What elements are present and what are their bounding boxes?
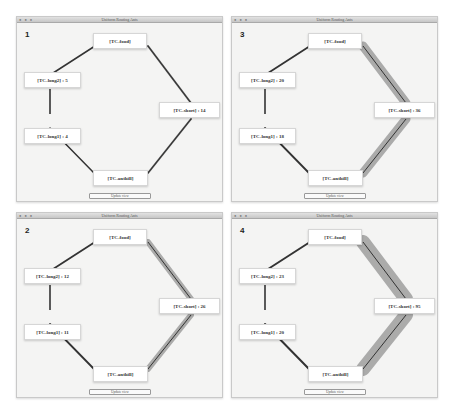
node-tc-long1[interactable]: [TC-long1] : 18	[239, 128, 296, 144]
node-tc-anthill[interactable]: [TC-anthill]	[93, 170, 148, 186]
node-tc-food[interactable]: [TC-food]	[93, 33, 147, 49]
node-tc-food[interactable]: [TC-food]	[308, 33, 362, 49]
app-window-2: ● ● ● Uniform Routing Ants 2 [TC-food] […	[16, 212, 223, 398]
app-window-1: ● ● ● Uniform Routing Ants 1 [TC-food] […	[16, 16, 223, 202]
node-tc-long2[interactable]: [TC-long2] : 20	[239, 72, 296, 88]
node-tc-short[interactable]: [TC-short] : 95	[374, 298, 435, 314]
node-tc-long1[interactable]: [TC-long1] : 11	[24, 324, 81, 340]
node-tc-short[interactable]: [TC-short] : 14	[159, 102, 220, 118]
node-tc-anthill[interactable]: [TC-anthill]	[308, 170, 363, 186]
node-tc-short[interactable]: [TC-short] : 26	[159, 298, 220, 314]
node-tc-long2[interactable]: [TC-long2] : 12	[24, 268, 81, 284]
node-tc-anthill[interactable]: [TC-anthill]	[93, 366, 148, 382]
node-tc-food[interactable]: [TC-food]	[308, 229, 362, 245]
node-tc-anthill[interactable]: [TC-anthill]	[308, 366, 363, 382]
node-tc-long1[interactable]: [TC-long1] : 20	[239, 324, 296, 340]
node-tc-food[interactable]: [TC-food]	[93, 229, 147, 245]
update-view-button[interactable]: Update view	[304, 389, 366, 395]
update-view-button[interactable]: Update view	[89, 193, 151, 199]
node-tc-long2[interactable]: [TC-long2] : 23	[239, 268, 296, 284]
node-tc-long2[interactable]: [TC-long2] : 5	[24, 72, 81, 88]
node-tc-long1[interactable]: [TC-long1] : 4	[24, 128, 81, 144]
node-tc-short[interactable]: [TC-short] : 36	[374, 102, 435, 118]
app-window-3: ● ● ● Uniform Routing Ants 3 [TC-food] […	[231, 16, 438, 202]
update-view-button[interactable]: Update view	[89, 389, 151, 395]
app-window-4: ● ● ● Uniform Routing Ants 4 [TC-food] […	[231, 212, 438, 398]
update-view-button[interactable]: Update view	[304, 193, 366, 199]
